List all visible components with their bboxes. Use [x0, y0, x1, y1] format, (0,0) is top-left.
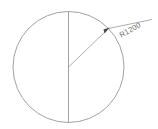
radius-dimension-line — [69, 29, 109, 68]
dimension-arrowhead-icon — [103, 28, 109, 34]
drawing-canvas: R1200 — [0, 0, 158, 129]
cad-drawing-svg — [0, 0, 158, 129]
